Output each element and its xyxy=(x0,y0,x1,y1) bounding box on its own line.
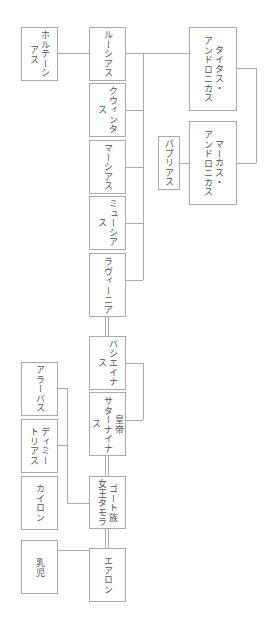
node-label: ホルテーシアス xyxy=(28,28,51,80)
line-brothers-bass-top xyxy=(125,363,143,364)
line-marcus-son xyxy=(125,167,143,168)
node-aaron: エアロン xyxy=(89,548,126,602)
node-label: ゴート族 女王タモラ xyxy=(96,479,119,527)
line-brothers-bass xyxy=(143,363,144,420)
line-marcus-right xyxy=(237,163,256,164)
line-mucius xyxy=(125,223,143,224)
node-bassianus: バシエイナス xyxy=(89,336,126,390)
line-sat-tamora-b xyxy=(108,455,109,477)
node-saturninus: 皇帝 サターナイナス xyxy=(89,392,126,456)
node-demetrius: ディミー トリアス xyxy=(21,419,58,473)
node-alarbus: アラーバス xyxy=(21,362,58,416)
node-martius: マーシアス xyxy=(89,140,126,194)
line-titus-right xyxy=(237,68,256,69)
node-tamora: ゴート族 女王タモラ xyxy=(89,476,126,529)
node-hortensia: ホルテーシアス xyxy=(21,27,58,81)
node-baby: 乳児 xyxy=(21,540,58,594)
node-mutius: ミューシアス xyxy=(89,196,126,250)
line-brothers xyxy=(256,68,257,163)
node-label: エアロン xyxy=(102,556,113,594)
line-lavinia-bassianus-a xyxy=(105,316,106,336)
line-lavinia xyxy=(125,280,143,281)
node-publius: パブリアス xyxy=(158,136,180,190)
line-sat-tamora-a xyxy=(105,455,106,477)
node-lucius: ルーシアス xyxy=(89,27,126,81)
line-tamora-aaron-b xyxy=(108,528,109,548)
node-label: 皇帝 サターナイナス xyxy=(91,393,125,455)
node-chiron: カイロン xyxy=(21,476,58,530)
node-marcus: マーカス・ アンドロニカス xyxy=(189,121,237,205)
node-label: アラーバス xyxy=(34,365,45,413)
node-label: パブリアス xyxy=(163,139,174,187)
line-demetrius xyxy=(57,445,67,446)
line-lucius-titus xyxy=(125,53,190,54)
node-lavinia: ラヴィーニア xyxy=(89,253,126,317)
node-label: マーシアス xyxy=(102,143,113,191)
node-label: 乳児 xyxy=(34,558,45,577)
line-brothers-sat xyxy=(125,420,143,421)
node-label: カイロン xyxy=(34,484,45,522)
node-titus: タイタス・ アンドロニカス xyxy=(189,27,237,111)
node-label: ラヴィーニア xyxy=(102,257,113,314)
line-quintus xyxy=(125,110,143,111)
line-hortensia-lucius xyxy=(57,53,89,54)
line-sons-trunk xyxy=(67,388,68,503)
node-label: ディミー トリアス xyxy=(28,427,51,465)
line-lavinia-bassianus-b xyxy=(108,316,109,336)
line-siblings-trunk xyxy=(143,53,144,280)
line-sons-tamora xyxy=(67,503,89,504)
node-label: クウィンタス xyxy=(96,84,119,136)
node-label: バシエイナス xyxy=(96,337,119,389)
node-label: マーカス・ アンドロニカス xyxy=(202,130,225,197)
line-alarbus xyxy=(57,388,67,389)
node-label: ルーシアス xyxy=(102,30,113,78)
node-label: タイタス・ アンドロニカス xyxy=(202,36,225,103)
line-tamora-aaron-a xyxy=(105,528,106,548)
node-quintus: クウィンタス xyxy=(89,83,126,137)
node-label: ミューシアス xyxy=(96,197,119,249)
